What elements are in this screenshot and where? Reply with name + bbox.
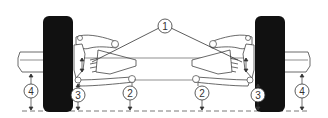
svg-text:2: 2: [127, 88, 133, 99]
suspension-diagram: 1 2 2 3 3 4 4: [0, 0, 328, 118]
callout-4-left: 4: [24, 84, 38, 98]
left-lower-control-arm: [78, 77, 134, 86]
right-wheel-assembly: [192, 16, 310, 112]
callout-1: 1: [158, 19, 172, 33]
callout-3-left: 3: [71, 88, 85, 102]
svg-text:1: 1: [162, 21, 168, 32]
callout-4-right: 4: [295, 84, 309, 98]
left-tire: [43, 16, 73, 112]
svg-text:4: 4: [28, 86, 34, 97]
left-frame-bracket: [96, 50, 136, 74]
svg-text:3: 3: [255, 90, 261, 101]
callout-2-left: 2: [123, 86, 137, 100]
svg-text:4: 4: [299, 86, 305, 97]
callout-3-right: 3: [251, 88, 265, 102]
svg-text:3: 3: [75, 90, 81, 101]
svg-text:2: 2: [199, 88, 205, 99]
callout-2-right: 2: [195, 86, 209, 100]
